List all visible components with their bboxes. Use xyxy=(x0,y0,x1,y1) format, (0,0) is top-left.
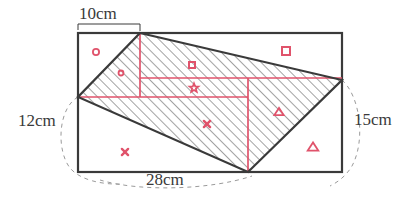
dimension-label-right: 15cm xyxy=(354,110,392,130)
figure-canvas xyxy=(0,0,420,203)
geometry-figure: 10cm 12cm 15cm 28cm xyxy=(0,0,420,203)
leader-line-top xyxy=(78,24,140,31)
dimension-label-bottom: 28cm xyxy=(146,170,184,190)
dimension-label-left: 12cm xyxy=(18,111,56,131)
dimension-label-top: 10cm xyxy=(79,4,117,24)
